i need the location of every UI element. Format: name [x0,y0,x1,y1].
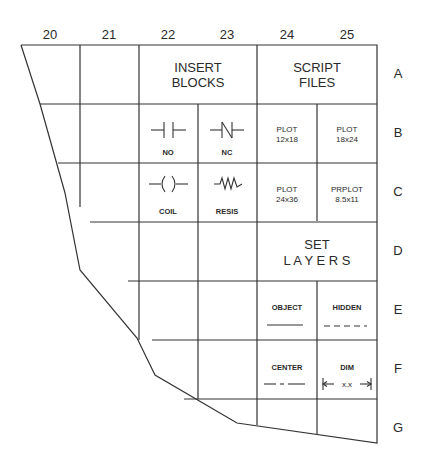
plot-18x24-line2: 18x24 [336,135,358,144]
cell-23f[interactable] [199,341,256,398]
plot-18x24-button[interactable]: PLOT 18x24 [317,104,377,163]
insert-blocks-button[interactable]: INSERT BLOCKS [139,45,257,104]
dim-layer-button[interactable]: DIM x.x [317,340,377,399]
row-label-g: G [393,420,403,435]
column-label-21: 21 [102,27,116,42]
no-contact-button[interactable]: NO [139,104,198,163]
column-label-24: 24 [280,27,294,42]
prplot-line2: 8.5x11 [335,195,359,204]
row-label-e: E [394,302,403,317]
cell-25g[interactable] [318,400,376,430]
row-label-a: A [394,66,403,81]
row-labels: A B C D E F G [393,66,403,435]
object-layer-button[interactable]: OBJECT [257,281,317,340]
row-label-f: F [394,361,402,376]
no-contact-label: NO [162,148,173,157]
insert-blocks-line2: BLOCKS [172,75,225,90]
plot-18x24-line1: PLOT [337,125,358,134]
row-label-c: C [393,184,402,199]
script-files-line2: FILES [299,75,335,90]
resistor-label: RESIS [216,207,239,216]
cell-24g[interactable] [258,400,316,422]
coil-label: COIL [159,207,177,216]
set-layers-button[interactable]: SET L A Y E R S [257,222,377,281]
nc-contact-button[interactable]: NC [198,104,257,163]
script-files-button[interactable]: SCRIPT FILES [257,45,377,104]
prplot-line1: PRPLOT [331,185,363,194]
dim-label: DIM [340,363,354,372]
column-label-25: 25 [340,27,354,42]
script-files-line1: SCRIPT [293,60,341,75]
column-labels: 20 21 22 23 24 25 [43,27,354,42]
column-label-20: 20 [43,27,57,42]
cell-21c[interactable] [81,164,138,221]
set-layers-line1: SET [304,237,329,252]
plot-12x18-line2: 12x18 [276,135,298,144]
plot-12x18-button[interactable]: PLOT 12x18 [257,104,317,163]
prplot-8-5x11-button[interactable]: PRPLOT 8.5x11 [317,163,377,222]
center-label: CENTER [272,363,303,372]
set-layers-line2: L A Y E R S [284,253,351,268]
row-label-d: D [393,243,402,258]
tablet-menu: 20 21 22 23 24 25 A B C D E F G [0,0,423,469]
cell-21b[interactable] [81,105,138,162]
hidden-layer-button[interactable]: HIDDEN [317,281,377,340]
coil-button[interactable]: COIL [139,163,198,222]
cell-23d[interactable] [199,223,256,280]
cell-23e[interactable] [199,282,256,339]
cell-20a[interactable] [28,46,79,103]
cell-20b[interactable] [48,105,79,162]
cell-22e[interactable] [140,282,197,339]
insert-blocks-line1: INSERT [174,60,221,75]
plot-24x36-button[interactable]: PLOT 24x36 [257,163,317,222]
column-label-22: 22 [161,27,175,42]
cell-21a[interactable] [81,46,138,103]
cell-22d[interactable] [140,223,197,280]
dim-value: x.x [342,380,352,389]
plot-12x18-line1: PLOT [277,125,298,134]
resistor-button[interactable]: RESIS [198,163,257,222]
object-label: OBJECT [272,303,303,312]
row-label-b: B [394,125,403,140]
hidden-label: HIDDEN [333,303,362,312]
plot-24x36-line1: PLOT [277,185,298,194]
plot-24x36-line2: 24x36 [276,195,298,204]
center-layer-button[interactable]: CENTER [257,340,317,399]
column-label-23: 23 [220,27,234,42]
nc-contact-label: NC [222,148,233,157]
